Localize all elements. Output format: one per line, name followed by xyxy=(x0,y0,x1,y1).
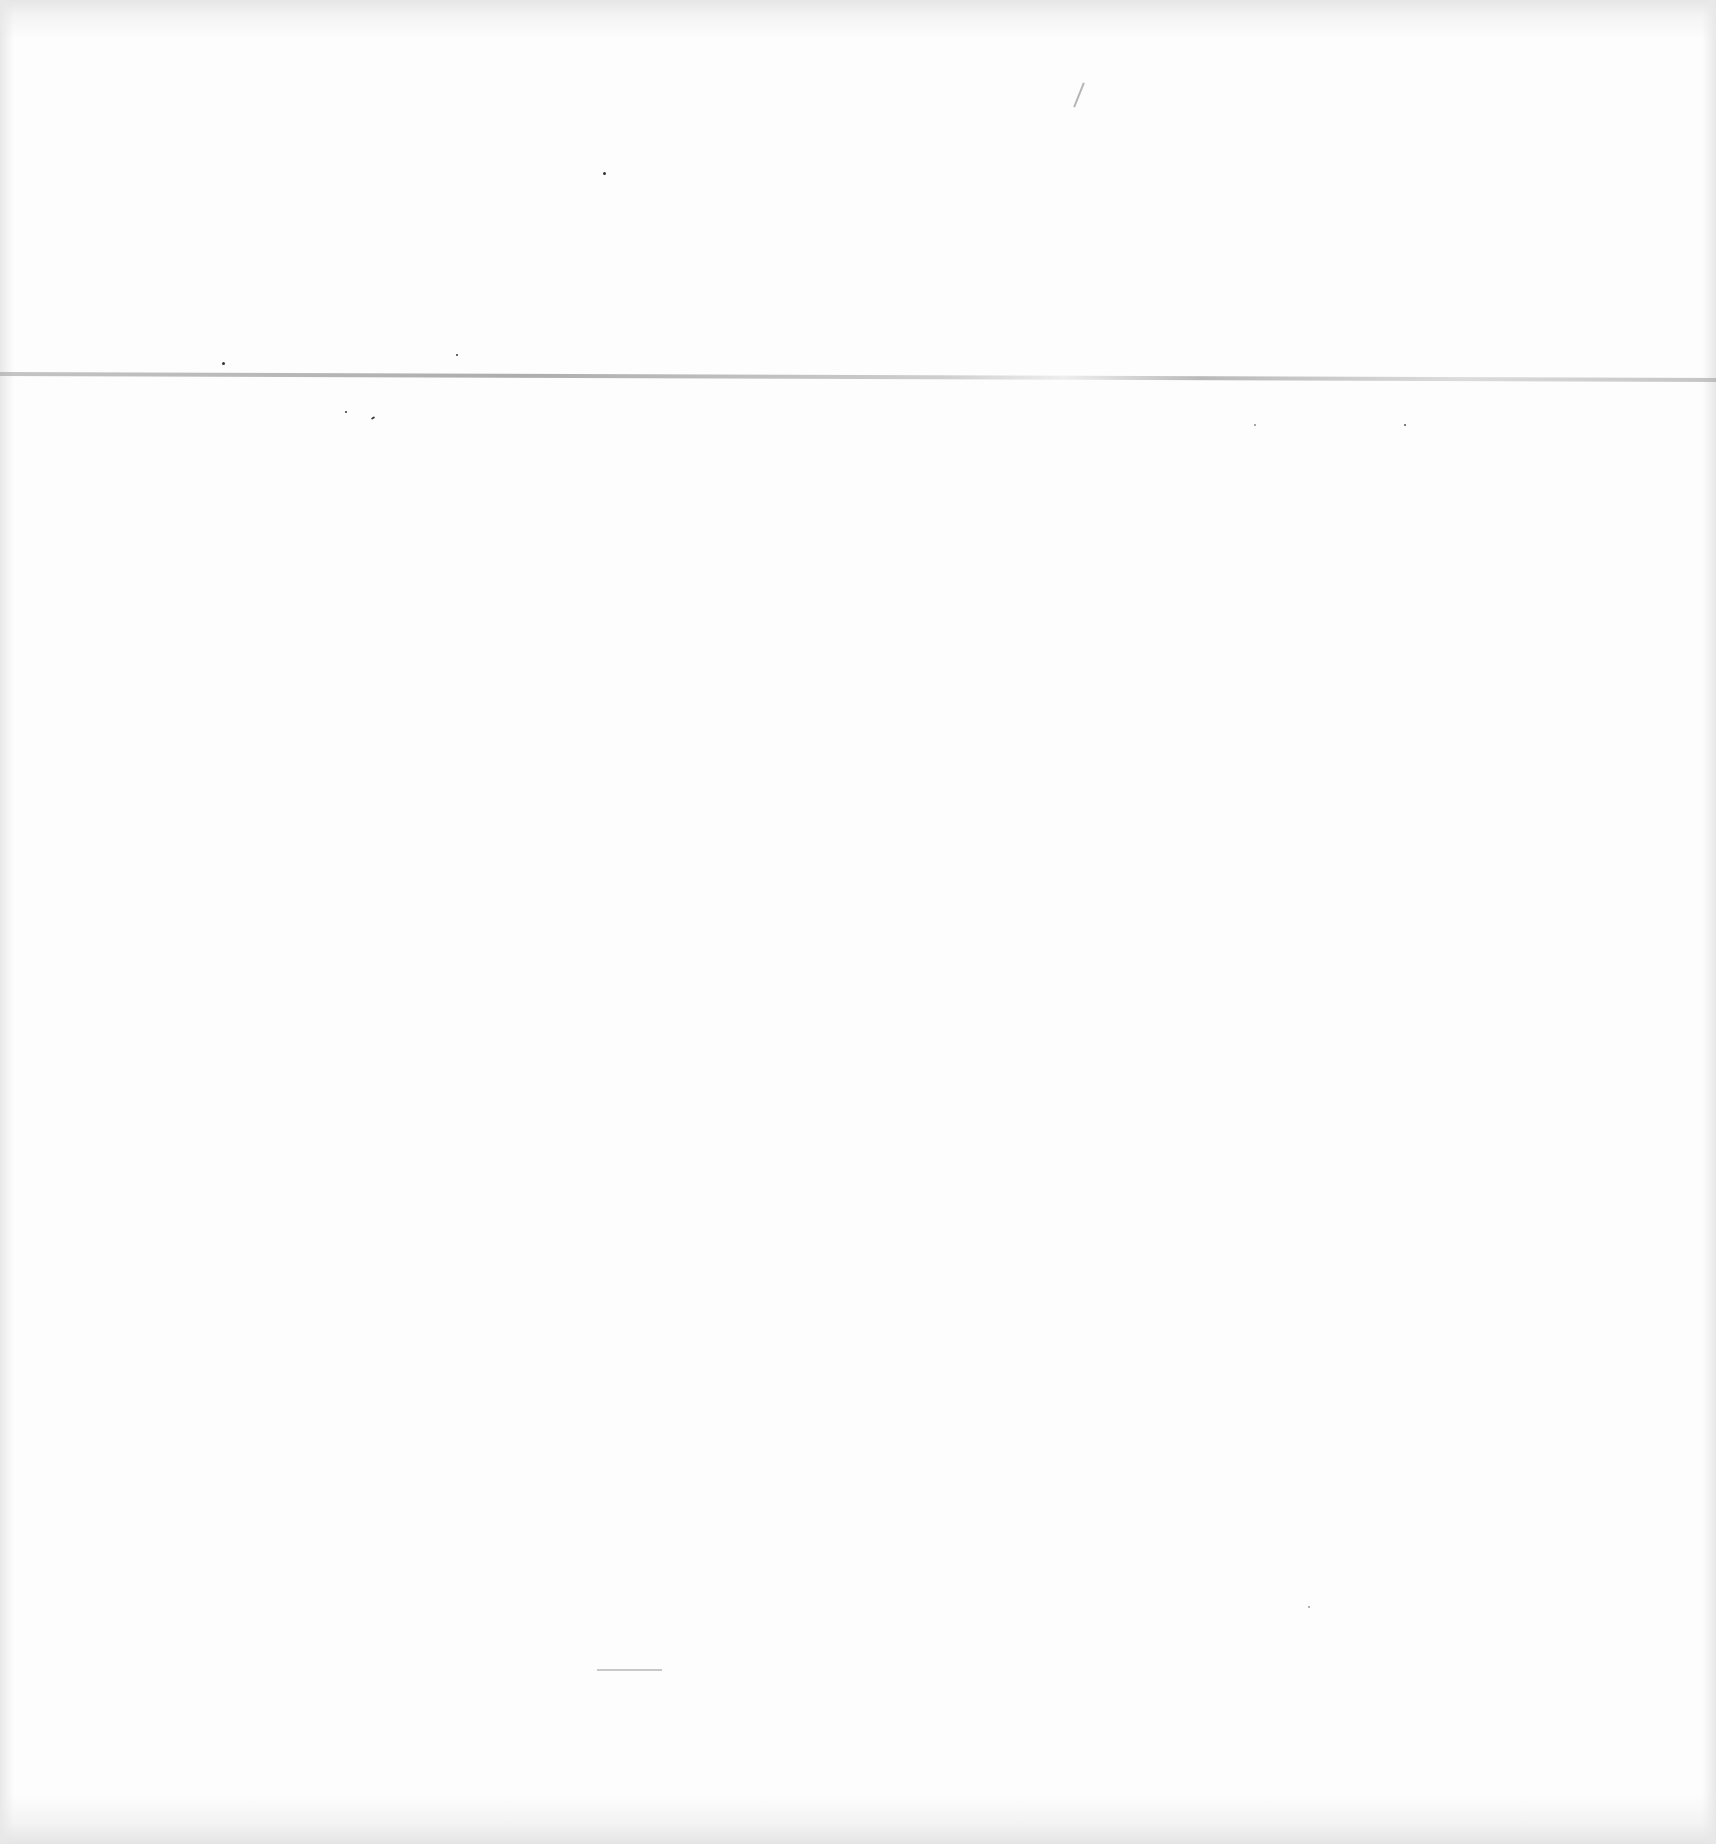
speck xyxy=(1308,1606,1310,1608)
scan-shadow-left xyxy=(0,0,14,1844)
scan-shadow-bottom xyxy=(0,1794,1716,1844)
scan-shadow-top xyxy=(0,0,1716,40)
speck xyxy=(1254,424,1256,426)
speck xyxy=(1404,424,1406,426)
pen-mark xyxy=(1073,83,1085,108)
speck xyxy=(222,362,225,365)
speck xyxy=(456,354,458,356)
speck xyxy=(603,172,606,175)
short-rule xyxy=(597,1669,662,1671)
scan-shadow-right xyxy=(1702,0,1716,1844)
speck xyxy=(371,416,375,420)
fold-line xyxy=(0,372,1716,382)
blank-page xyxy=(0,0,1716,1844)
speck xyxy=(345,411,347,413)
